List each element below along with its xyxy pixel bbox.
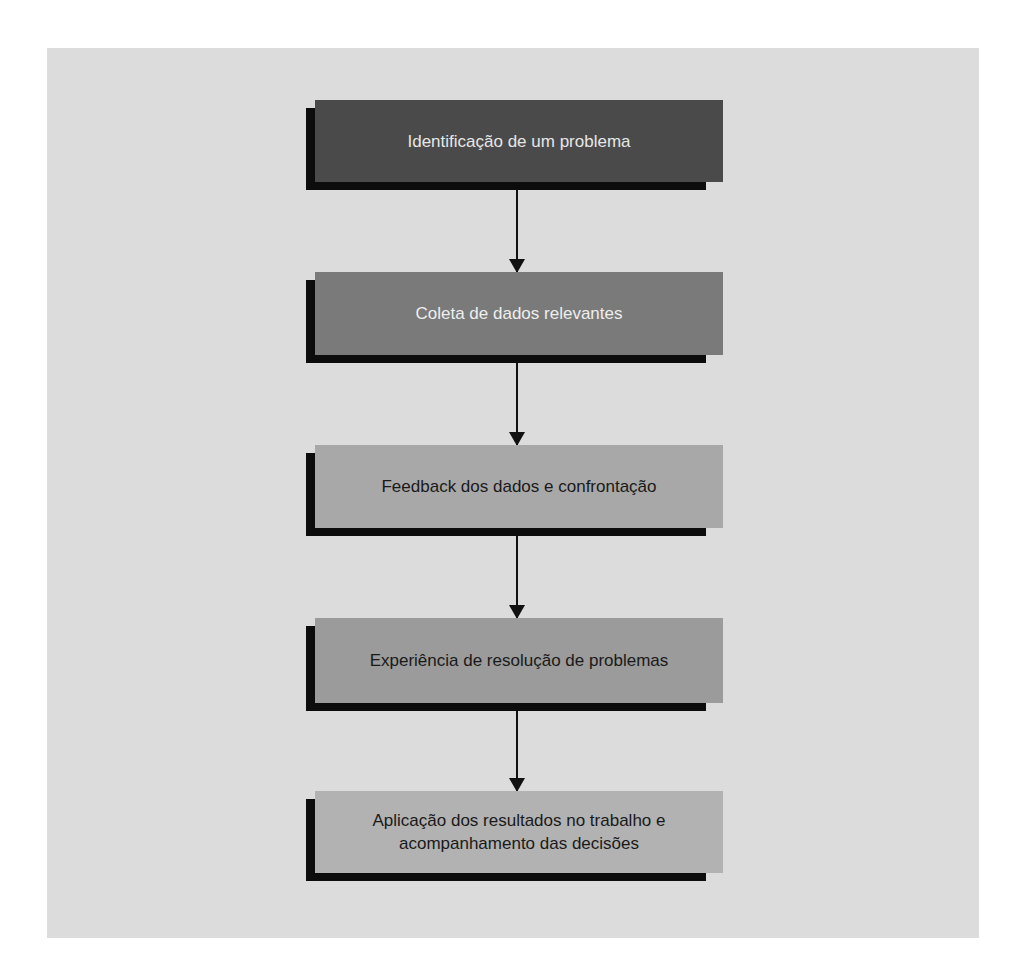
arrow-down-icon xyxy=(509,432,525,446)
step-label: Identificação de um problema xyxy=(407,130,630,153)
arrow-connector xyxy=(516,190,518,272)
flow-step-problem-solving: Experiência de resolução de problemas xyxy=(315,618,723,703)
arrow-connector xyxy=(516,711,518,791)
step-label: Coleta de dados relevantes xyxy=(416,302,623,325)
flow-step-apply-results: Aplicação dos resultados no trabalho e a… xyxy=(315,791,723,873)
arrow-connector xyxy=(516,536,518,618)
arrow-connector xyxy=(516,363,518,445)
step-box: Identificação de um problema xyxy=(315,100,723,182)
step-label: Feedback dos dados e confrontação xyxy=(381,475,656,498)
step-label: Aplicação dos resultados no trabalho e a… xyxy=(327,809,711,855)
arrow-down-icon xyxy=(509,259,525,273)
step-box: Experiência de resolução de problemas xyxy=(315,618,723,703)
arrow-down-icon xyxy=(509,605,525,619)
step-label: Experiência de resolução de problemas xyxy=(370,649,669,672)
flow-step-collect-data: Coleta de dados relevantes xyxy=(315,272,723,355)
step-box: Coleta de dados relevantes xyxy=(315,272,723,355)
flow-step-identify-problem: Identificação de um problema xyxy=(315,100,723,182)
flow-step-feedback: Feedback dos dados e confrontação xyxy=(315,445,723,528)
arrow-down-icon xyxy=(509,778,525,792)
step-box: Feedback dos dados e confrontação xyxy=(315,445,723,528)
step-box: Aplicação dos resultados no trabalho e a… xyxy=(315,791,723,873)
